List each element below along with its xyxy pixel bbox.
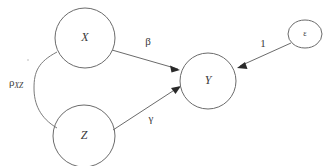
edge-label-one: 1 [260,37,266,49]
edge-label-rho-xz: ρXZ [9,76,24,90]
node-x-label: X [80,30,89,44]
node-y-label: Y [205,73,213,87]
edge-x-z-correlation-curve [34,52,57,128]
edge-x-to-y-line [112,50,178,69]
edge-label-gamma: γ [148,112,154,124]
rho-subscript: XZ [14,81,25,90]
stray-speck [27,59,29,61]
path-diagram-svg: X Z Y ε β γ 1 ρXZ [0,0,331,166]
node-epsilon-label: ε [303,29,307,38]
arrowhead-x-to-y [170,66,180,73]
edge-z-to-y-line [113,87,179,130]
node-z-label: Z [81,128,88,142]
path-diagram-canvas: X Z Y ε β γ 1 ρXZ [0,0,331,166]
arrowhead-z-to-y [171,86,181,94]
edge-label-beta: β [145,35,151,47]
